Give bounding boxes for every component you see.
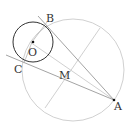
tangent-construction-diagram: B O C M A xyxy=(0,0,133,127)
segment-oa xyxy=(30,42,114,100)
label-c: C xyxy=(14,63,22,76)
point-o xyxy=(32,41,35,44)
label-o: O xyxy=(28,46,37,59)
circle-m xyxy=(22,19,124,121)
label-m: M xyxy=(59,69,70,82)
radius-ob xyxy=(32,22,47,42)
label-b: B xyxy=(46,12,54,25)
label-a: A xyxy=(113,100,123,113)
